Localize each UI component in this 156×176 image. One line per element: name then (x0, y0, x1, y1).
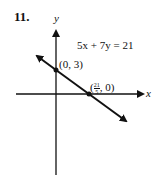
x-intercept-label: (215, 0) (90, 81, 114, 95)
y-axis-label: y (54, 12, 59, 24)
graph (0, 0, 156, 176)
line-5x-7y-21-a (37, 56, 56, 70)
x-axis-label: x (146, 87, 151, 99)
equation-label: 5x + 7y = 21 (77, 39, 133, 51)
label-rest: , 0) (100, 81, 115, 93)
y-intercept-label: (0, 3) (59, 58, 83, 70)
point-y-intercept (54, 68, 59, 73)
